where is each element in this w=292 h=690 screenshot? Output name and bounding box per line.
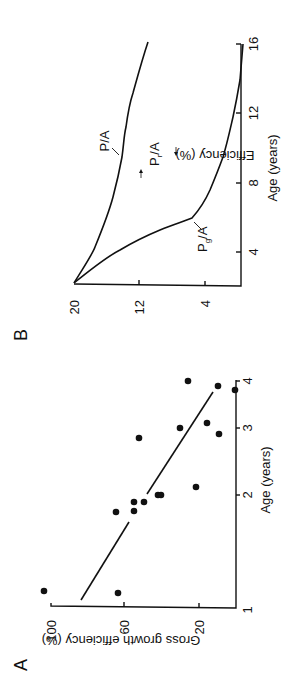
a-ylabel: Gross growth efficiency (%) <box>42 633 201 648</box>
data-point <box>141 499 148 506</box>
svg-text:Pg/A: Pg/A <box>195 226 212 252</box>
a-fit-line-upper <box>147 392 213 494</box>
a-ytick-label-60: 60 <box>117 620 132 634</box>
svg-text:Pr/A: Pr/A <box>147 142 164 166</box>
data-point <box>115 590 122 597</box>
data-point <box>185 378 192 385</box>
pr-label: Pr/A <box>147 142 164 166</box>
a-fit-line-lower <box>81 522 129 600</box>
data-point <box>216 431 223 438</box>
b-ytick-label-20: 20 <box>67 300 82 314</box>
b-xtick-label-4: 4 <box>246 248 261 255</box>
a-xlabel: Age (years) <box>258 446 273 513</box>
a-xtick-label-3: 3 <box>240 424 255 431</box>
pg-label-main: P <box>195 243 210 252</box>
b-xtick-label-8: 8 <box>246 179 261 186</box>
data-point <box>158 492 165 499</box>
a-xtick-label-4: 4 <box>240 377 255 384</box>
figure: 20 12 4 4 8 12 16 Efficiency (%) Age (ye… <box>0 0 292 690</box>
data-point <box>204 420 211 427</box>
pa-curve <box>74 42 148 283</box>
a-xtick-label-1: 1 <box>240 606 255 613</box>
panel-b-letter: B <box>11 329 31 341</box>
data-point <box>232 387 239 394</box>
data-point <box>193 484 200 491</box>
panel-a: 100 60 20 1 2 3 4 Gross growth efficienc… <box>11 377 273 671</box>
b-ytick-label-12: 12 <box>132 300 147 314</box>
pg-label-tail: /A <box>195 226 210 239</box>
data-point <box>131 508 138 515</box>
b-xtick-label-12: 12 <box>246 106 261 120</box>
b-ylabel: Efficiency (%) <box>175 148 254 163</box>
data-point <box>41 588 48 595</box>
pr-label-main: P <box>147 157 162 166</box>
a-data-points <box>41 378 239 597</box>
b-xtick-label-16: 16 <box>246 37 261 51</box>
data-point <box>131 499 138 506</box>
data-point <box>136 435 143 442</box>
pa-label: P/A <box>97 130 112 151</box>
panel-a-axes <box>51 380 236 608</box>
pr-label-tail: /A <box>147 142 162 155</box>
data-point <box>215 383 222 390</box>
pr-arrowhead-up-icon <box>139 169 143 173</box>
b-xlabel: Age (years) <box>265 134 280 201</box>
a-xtick-label-2: 2 <box>240 491 255 498</box>
pg-label: Pg/A <box>195 226 212 252</box>
b-ytick-label-4: 4 <box>198 300 213 307</box>
data-point <box>177 425 184 432</box>
a-ytick-label-20: 20 <box>192 620 207 634</box>
panel-a-letter: A <box>11 659 31 671</box>
panel-b: 20 12 4 4 8 12 16 Efficiency (%) Age (ye… <box>11 37 280 341</box>
pa-arrow-icon <box>112 148 119 155</box>
data-point <box>113 509 120 516</box>
